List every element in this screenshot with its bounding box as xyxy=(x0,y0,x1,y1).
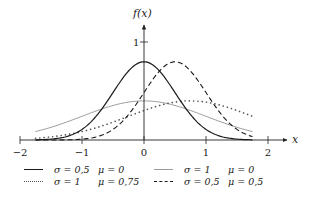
x-tick-label: 2 xyxy=(265,147,271,158)
x-tick-label: 0 xyxy=(141,147,147,158)
y-axis-label: f(x) xyxy=(132,7,152,20)
x-axis-label: x xyxy=(292,133,299,146)
chart-canvas: −2−1012 1 x f(x) xyxy=(0,0,314,199)
y-tick-label: 1 xyxy=(133,37,139,48)
x-tick-label: −1 xyxy=(75,147,90,158)
x-tick-label: 1 xyxy=(203,147,209,158)
x-tick-label: −2 xyxy=(13,147,28,158)
